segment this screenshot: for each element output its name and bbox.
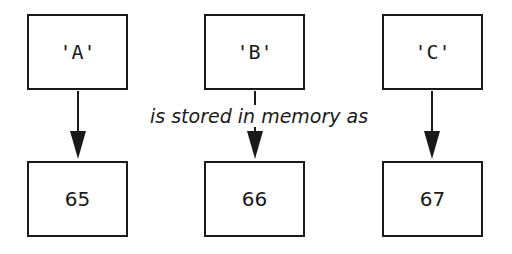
char-box-a: 'A'	[27, 14, 128, 90]
connector-line-c	[431, 91, 433, 131]
arrow-head-c-icon	[424, 131, 440, 159]
char-a: 'A'	[59, 40, 95, 64]
char-b: 'B'	[236, 40, 272, 64]
char-box-b: 'B'	[204, 14, 305, 90]
code-c: 67	[420, 187, 445, 211]
code-a: 65	[65, 187, 90, 211]
relationship-label: is stored in memory as	[150, 105, 368, 127]
char-c: 'C'	[414, 40, 450, 64]
code-box-b: 66	[204, 161, 305, 237]
char-box-c: 'C'	[382, 14, 483, 90]
code-b: 66	[242, 187, 267, 211]
arrow-head-b-icon	[247, 131, 263, 159]
code-box-a: 65	[27, 161, 128, 237]
arrow-head-a-icon	[70, 131, 86, 159]
code-box-c: 67	[382, 161, 483, 237]
connector-line-a	[77, 91, 79, 131]
